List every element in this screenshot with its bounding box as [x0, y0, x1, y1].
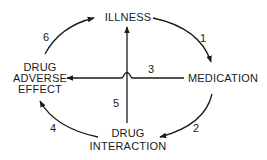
node-drug-adverse-effect-line3: EFFECT — [18, 83, 62, 95]
edge-3-arrow — [67, 73, 184, 79]
node-drug-adverse-effect: DRUG ADVERSE EFFECT — [13, 61, 67, 95]
node-medication-label: MEDICATION — [188, 72, 258, 84]
edge-2-arrow — [160, 94, 212, 137]
node-illness: ILLNESS — [105, 11, 152, 23]
node-illness-label: ILLNESS — [105, 11, 152, 23]
edge-3-label: 3 — [148, 63, 154, 75]
edge-4-arrow — [40, 101, 98, 137]
edge-4-label: 4 — [50, 122, 56, 134]
edge-6-label: 6 — [43, 31, 49, 43]
drug-cycle-diagram: ILLNESS MEDICATION DRUG INTERACTION DRUG… — [0, 0, 267, 160]
edge-6-arrow — [45, 18, 94, 54]
edge-2-label: 2 — [193, 122, 199, 134]
edge-1-label: 1 — [200, 32, 206, 44]
node-drug-interaction: DRUG INTERACTION — [90, 127, 167, 152]
edge-5-label: 5 — [113, 97, 119, 109]
node-drug-interaction-line2: INTERACTION — [90, 140, 167, 152]
node-drug-interaction-line1: DRUG — [111, 127, 144, 139]
node-medication: MEDICATION — [188, 72, 258, 84]
